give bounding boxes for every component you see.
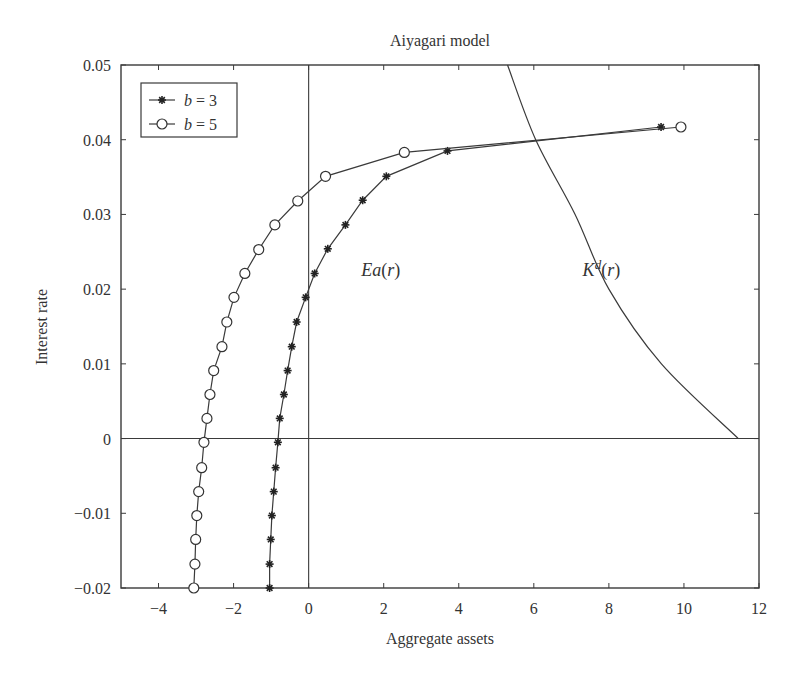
star-marker	[293, 318, 301, 326]
circle-marker	[157, 119, 167, 129]
legend-label: b = 5	[184, 116, 217, 133]
circle-marker	[676, 122, 686, 132]
star-marker	[288, 343, 296, 351]
y-tick-label: −0.01	[74, 505, 111, 522]
circle-marker	[197, 463, 207, 473]
plot-frame	[121, 65, 759, 588]
y-tick-label: 0.02	[83, 281, 111, 298]
x-tick-label: 8	[605, 600, 613, 617]
star-marker	[280, 390, 288, 398]
y-tick-label: −0.02	[74, 580, 111, 597]
circle-marker	[209, 366, 219, 376]
plot-area: −4−2024681012−0.02−0.0100.010.020.030.04…	[74, 57, 767, 617]
circle-marker	[217, 342, 227, 352]
x-tick-label: 0	[305, 600, 313, 617]
series-b-5	[189, 122, 686, 593]
x-tick-label: 4	[455, 600, 463, 617]
circle-marker	[189, 583, 199, 593]
star-marker	[382, 172, 390, 180]
star-marker	[657, 123, 665, 131]
circle-marker	[205, 389, 215, 399]
y-tick-label: 0.01	[83, 356, 111, 373]
x-axis-label: Aggregate assets	[386, 630, 494, 648]
star-marker	[324, 245, 332, 253]
circle-marker	[229, 292, 239, 302]
y-tick-label: 0.04	[83, 132, 111, 149]
star-marker	[341, 221, 349, 229]
star-marker	[284, 367, 292, 375]
y-axis-label: Interest rate	[33, 289, 50, 365]
circle-marker	[222, 317, 232, 327]
series-line	[194, 127, 681, 588]
x-tick-label: −4	[150, 600, 167, 617]
circle-marker	[190, 559, 200, 569]
circle-marker	[321, 171, 331, 181]
legend: b = 3b = 5	[141, 83, 237, 137]
y-tick-label: 0	[103, 431, 111, 448]
x-tick-label: −2	[225, 600, 242, 617]
circle-marker	[293, 196, 303, 206]
star-marker	[266, 584, 274, 592]
star-marker	[359, 196, 367, 204]
circle-marker	[194, 487, 204, 497]
series-kd-r-	[508, 65, 739, 439]
circle-marker	[192, 511, 202, 521]
star-marker	[158, 96, 166, 104]
x-tick-label: 6	[530, 600, 538, 617]
circle-marker	[240, 268, 250, 278]
circle-marker	[199, 437, 209, 447]
kd-curve-label: Kd(r)	[582, 257, 621, 281]
circle-marker	[254, 245, 264, 255]
circle-marker	[202, 413, 212, 423]
star-marker	[267, 535, 275, 543]
y-tick-label: 0.05	[83, 57, 111, 74]
star-marker	[302, 293, 310, 301]
ea-curve-label: Ea(r)	[360, 260, 400, 281]
circle-marker	[270, 220, 280, 230]
series-b-3	[266, 123, 665, 592]
star-marker	[270, 488, 278, 496]
star-marker	[276, 414, 284, 422]
kd-curve	[508, 65, 739, 439]
chart: Aiyagari model −4−2024681012−0.02−0.0100…	[0, 0, 801, 676]
y-tick-label: 0.03	[83, 206, 111, 223]
star-marker	[311, 269, 319, 277]
x-tick-label: 12	[751, 600, 767, 617]
series-line	[270, 127, 661, 588]
star-marker	[274, 438, 282, 446]
circle-marker	[399, 147, 409, 157]
star-marker	[266, 560, 274, 568]
x-tick-label: 2	[380, 600, 388, 617]
x-tick-label: 10	[676, 600, 692, 617]
chart-title: Aiyagari model	[390, 32, 491, 50]
star-marker	[272, 464, 280, 472]
circle-marker	[191, 534, 201, 544]
star-marker	[268, 512, 276, 520]
legend-label: b = 3	[184, 92, 217, 109]
